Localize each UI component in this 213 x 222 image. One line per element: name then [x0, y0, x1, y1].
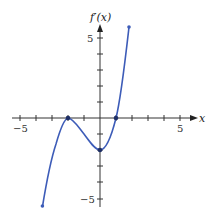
y-axis-label: f′(x) — [89, 11, 111, 24]
x-axis-label: x — [199, 112, 206, 125]
chart: −5 5 5 −5 x f′(x) — [0, 0, 213, 222]
point-0-neg2 — [98, 148, 103, 153]
curve-endpoint-bottom — [41, 204, 45, 208]
x-tick-label-neg5: −5 — [13, 123, 28, 134]
y-tick-label-5: 5 — [87, 33, 93, 44]
point-1-0 — [114, 116, 119, 121]
x-axis-arrow-icon — [190, 115, 198, 121]
y-axis-arrow-icon — [97, 24, 103, 32]
curve-endpoint-top — [127, 25, 131, 29]
x-tick-label-5: 5 — [177, 123, 183, 134]
y-tick-label-neg5: −5 — [80, 194, 95, 205]
point-neg2-0 — [66, 116, 71, 121]
